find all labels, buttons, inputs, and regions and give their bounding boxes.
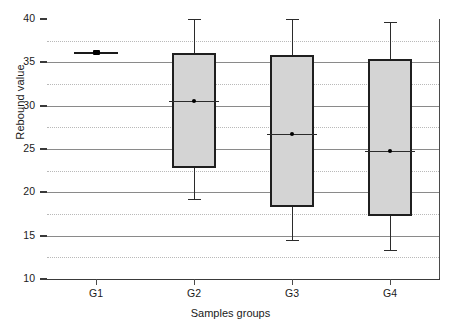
y-axis-tick-label: 20 <box>9 185 35 197</box>
x-axis-tick-label-g2: G2 <box>174 287 214 299</box>
y-axis-tick-label: 25 <box>9 142 35 154</box>
x-axis-tick-label-g1: G1 <box>76 287 116 299</box>
plot-border-right <box>439 19 440 280</box>
y-axis-tick-label: 15 <box>9 229 35 241</box>
whisker-cap-upper <box>384 22 397 23</box>
x-axis-tick-label-g4: G4 <box>370 287 410 299</box>
x-axis-tick <box>96 279 97 285</box>
mean-marker <box>388 149 392 153</box>
x-axis-title: Samples groups <box>0 307 461 319</box>
y-axis-tick-label: 40 <box>9 12 35 24</box>
y-axis-tick-label: 10 <box>9 272 35 284</box>
y-axis-tick <box>40 61 47 63</box>
whisker-upper <box>390 22 391 59</box>
x-axis-tick <box>390 279 391 285</box>
y-axis-tick-label: 30 <box>9 99 35 111</box>
y-axis-tick <box>40 18 47 20</box>
box-iqr <box>368 59 412 216</box>
y-axis-tick-label: 35 <box>9 55 35 67</box>
boxplot-figure: Rebound value Samples groups 40353025201… <box>0 0 461 332</box>
x-axis-tick <box>194 279 195 285</box>
y-axis-tick <box>40 278 47 280</box>
x-axis-tick-label-g3: G3 <box>272 287 312 299</box>
boxplot-g4 <box>47 19 439 279</box>
y-axis-tick <box>40 148 47 150</box>
whisker-lower <box>390 216 391 251</box>
whisker-cap-lower <box>384 250 397 251</box>
x-axis-tick <box>292 279 293 285</box>
y-axis-tick <box>40 191 47 193</box>
y-axis-tick <box>40 235 47 237</box>
y-axis-tick <box>40 105 47 107</box>
plot-area: 40353025201510 G1G2G3G4 <box>47 19 439 279</box>
